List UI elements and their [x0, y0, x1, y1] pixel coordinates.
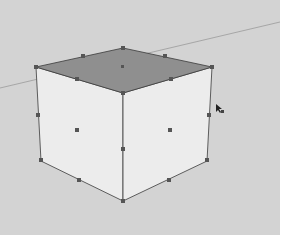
grip[interactable] — [36, 113, 40, 117]
grip[interactable] — [163, 54, 167, 58]
grip[interactable] — [34, 65, 38, 69]
3d-viewport[interactable] — [0, 0, 280, 235]
grip[interactable] — [75, 77, 79, 81]
grip[interactable] — [168, 128, 172, 132]
grip[interactable] — [210, 65, 214, 69]
grip[interactable] — [121, 199, 125, 203]
grip[interactable] — [77, 178, 81, 182]
grip[interactable] — [121, 46, 125, 50]
scene-canvas[interactable] — [0, 0, 280, 235]
grip[interactable] — [169, 77, 173, 81]
grip[interactable] — [205, 158, 209, 162]
grip[interactable] — [121, 147, 125, 151]
grip[interactable] — [81, 54, 85, 58]
grip[interactable] — [39, 158, 43, 162]
grip[interactable] — [167, 178, 171, 182]
grip[interactable] — [75, 128, 79, 132]
grip[interactable] — [121, 65, 124, 68]
scale-cursor-icon — [216, 104, 224, 113]
grip[interactable] — [121, 91, 125, 95]
grip[interactable] — [207, 113, 211, 117]
